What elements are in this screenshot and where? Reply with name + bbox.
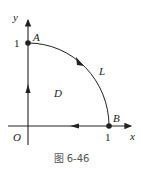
arc-L: [28, 43, 109, 126]
diagram-canvas: y x O 1 1 A B L D: [0, 0, 143, 175]
figure-caption: 图 6-46: [0, 150, 143, 165]
point-A: [25, 40, 31, 46]
y-tick-label: 1: [14, 37, 20, 49]
x-axis-direction-arrow-icon: [70, 124, 79, 129]
y-axis-direction-arrow-icon: [26, 84, 31, 93]
region-D-label: D: [53, 87, 62, 99]
x-axis-label: x: [129, 130, 135, 142]
point-A-label: A: [32, 31, 40, 43]
x-tick-label: 1: [105, 131, 111, 143]
diagram-figure: y x O 1 1 A B L D 图 6-46: [0, 0, 143, 175]
curve-L-label: L: [98, 65, 105, 77]
origin-label: O: [13, 131, 21, 143]
point-B: [106, 123, 112, 129]
point-B-label: B: [113, 112, 120, 124]
y-axis-label: y: [12, 11, 18, 23]
